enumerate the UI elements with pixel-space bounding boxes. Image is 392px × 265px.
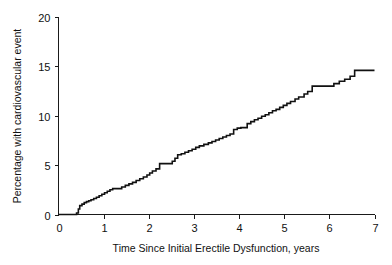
x-axis-tick-label: 5	[281, 222, 287, 234]
y-axis-tick-label: 0	[44, 210, 50, 222]
cumulative-incidence-chart: 05101520 01234567 Time Since Initial Ere…	[0, 0, 392, 265]
x-axis-tick-label: 4	[236, 222, 242, 234]
cumulative-incidence-curve	[59, 70, 375, 214]
y-axis-title: Percentage with cardiovascular event	[11, 29, 23, 204]
x-axis-tick-label: 6	[326, 222, 332, 234]
y-axis-tick-labels: 05101520	[38, 12, 50, 222]
y-axis-tick-label: 5	[44, 160, 50, 172]
x-axis-tick-label: 3	[191, 222, 197, 234]
y-axis-tick-label: 15	[38, 61, 50, 73]
y-axis-ticks	[55, 18, 59, 216]
x-axis-tick-labels: 01234567	[56, 222, 378, 234]
x-axis-tick-label: 0	[56, 222, 62, 234]
x-axis-tick-label: 7	[372, 222, 378, 234]
x-axis-tick-label: 1	[101, 222, 107, 234]
x-axis-title: Time Since Initial Erectile Dysfunction,…	[113, 242, 320, 254]
chart-figure: 05101520 01234567 Time Since Initial Ere…	[0, 0, 392, 265]
x-axis-ticks	[105, 215, 376, 219]
x-axis-tick-label: 2	[146, 222, 152, 234]
y-axis-tick-label: 10	[38, 111, 50, 123]
y-axis-tick-label: 20	[38, 12, 50, 24]
